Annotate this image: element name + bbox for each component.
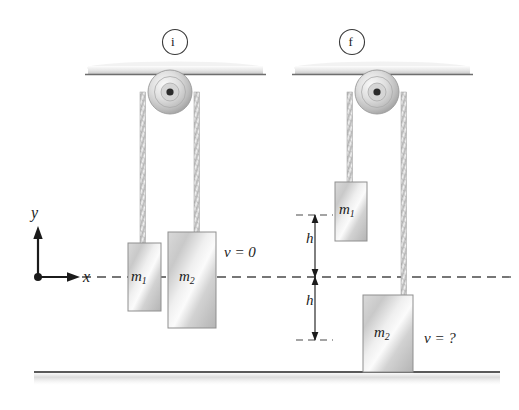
block-label-m1-final: m1 bbox=[339, 202, 355, 219]
mass-subscript: 2 bbox=[385, 331, 390, 342]
panel-initial bbox=[85, 62, 266, 329]
coordinate-axes bbox=[33, 226, 80, 282]
mass-symbol: m bbox=[374, 324, 385, 340]
axis-origin-dot bbox=[34, 273, 42, 281]
rope-left-initial bbox=[140, 92, 146, 245]
rope-right-initial bbox=[194, 92, 200, 234]
x-axis-arrowhead bbox=[67, 272, 80, 281]
panel-badge-initial: i bbox=[171, 35, 175, 48]
mass-subscript: 1 bbox=[142, 275, 147, 286]
rope-left-final bbox=[347, 92, 353, 184]
diagram-svg bbox=[0, 0, 519, 410]
height-label-upper: h bbox=[306, 231, 314, 246]
block-label-m1-initial: m1 bbox=[131, 269, 147, 286]
pulley-hub-icon bbox=[373, 88, 380, 95]
pulley-hub-icon bbox=[166, 88, 173, 95]
x-axis-label: x bbox=[83, 269, 90, 285]
mass-symbol: m bbox=[179, 268, 190, 284]
mass-subscript: 2 bbox=[190, 275, 195, 286]
mass-symbol: m bbox=[339, 201, 350, 217]
figure-canvas: i f m1 m2 v = 0 m1 m2 v = ? h h y x bbox=[0, 0, 519, 410]
height-marker-lower bbox=[296, 276, 333, 341]
y-axis-arrowhead bbox=[33, 226, 42, 239]
pulley-initial bbox=[148, 70, 192, 114]
mass-subscript: 1 bbox=[350, 208, 355, 219]
panel-badge-final: f bbox=[349, 35, 353, 48]
rope-right-final bbox=[401, 92, 407, 297]
height-marker-upper bbox=[296, 214, 333, 278]
ground-group bbox=[34, 372, 500, 385]
height-label-lower: h bbox=[306, 293, 314, 308]
pulley-final bbox=[355, 70, 399, 114]
y-axis-label: y bbox=[31, 205, 38, 221]
velocity-initial: v = 0 bbox=[224, 245, 256, 260]
mass-symbol: m bbox=[131, 268, 142, 284]
panel-badge-initial-ring bbox=[163, 30, 188, 55]
velocity-final: v = ? bbox=[424, 331, 456, 346]
block-label-m2-initial: m2 bbox=[179, 269, 195, 286]
block-label-m2-final: m2 bbox=[374, 325, 390, 342]
